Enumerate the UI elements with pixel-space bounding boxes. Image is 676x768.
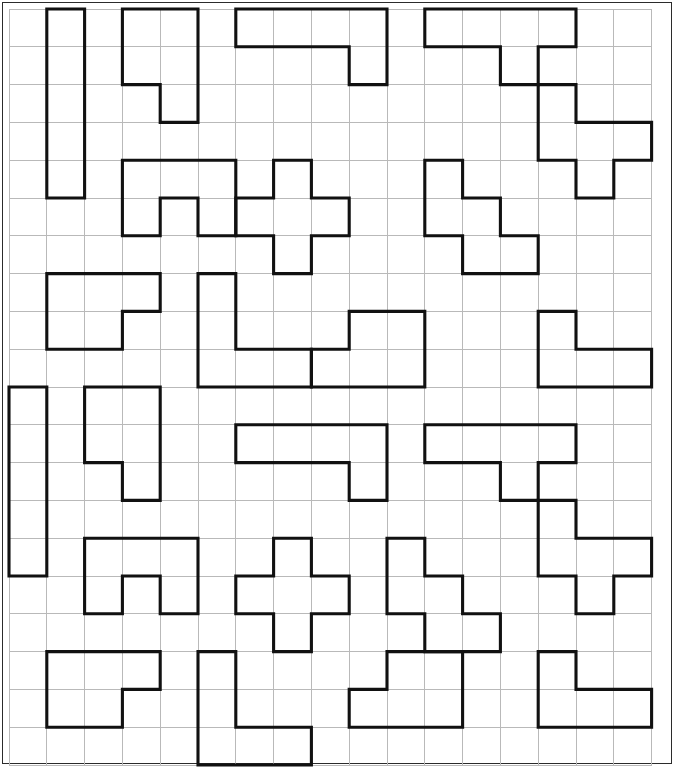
pentomino-L-pentomino-bottom [198,652,311,765]
pentomino-W-pentomino-lower-right [538,500,651,613]
pentomino-L-pentomino-tall [198,274,311,387]
worksheet-page [0,0,676,768]
pentomino-X-pentomino-cross [236,160,349,273]
pentomino-I-pentomino-vertical [47,9,85,198]
pentomino-W-pentomino-mid [425,160,538,273]
pentomino-X-pentomino-cross-lower [236,538,349,651]
pentomino-W-pentomino-lower-mid [387,538,500,651]
pentomino-grid [0,0,676,768]
pentomino-W-pentomino-right [538,85,651,198]
pentomino-I-pentomino-left-edge [9,387,47,576]
